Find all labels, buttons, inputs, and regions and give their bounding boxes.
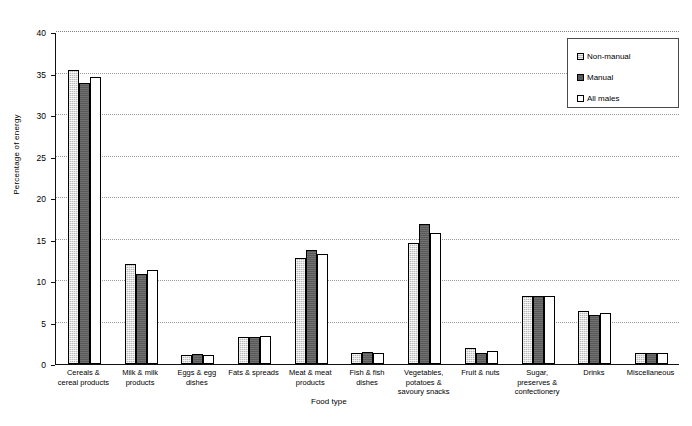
y-tick-label: 20	[0, 194, 46, 204]
bar[interactable]	[90, 77, 101, 364]
legend-label: Non-manual	[587, 52, 631, 61]
bar-group	[340, 33, 397, 364]
x-axis-tick-labels: Cereals & cereal productsMilk & milk pro…	[55, 368, 679, 408]
y-axis: 0510152025303540	[0, 0, 55, 426]
y-tick-label: 5	[0, 319, 46, 329]
y-axis-title: Percentage of energy	[12, 75, 21, 235]
bar[interactable]	[476, 353, 487, 364]
y-tick-mark	[51, 365, 55, 366]
y-tick-label: 0	[0, 360, 46, 370]
legend-swatch-icon	[577, 74, 584, 81]
bar[interactable]	[306, 250, 317, 364]
legend-swatch-icon	[577, 53, 584, 60]
bar-group	[510, 33, 567, 364]
bar-group	[169, 33, 226, 364]
bar[interactable]	[362, 352, 373, 364]
x-tick-label: Miscellaneous	[610, 368, 692, 378]
bar[interactable]	[487, 351, 498, 364]
bar[interactable]	[192, 354, 203, 364]
bar-group	[56, 33, 113, 364]
bar[interactable]	[430, 233, 441, 364]
bar[interactable]	[260, 336, 271, 364]
y-tick-label: 40	[0, 28, 46, 38]
bar-group	[396, 33, 453, 364]
bar-group	[283, 33, 340, 364]
legend-item[interactable]: Manual	[577, 67, 678, 88]
bar[interactable]	[125, 264, 136, 364]
y-tick-label: 30	[0, 111, 46, 121]
bar[interactable]	[79, 83, 90, 364]
bar[interactable]	[635, 353, 646, 364]
y-tick-label: 35	[0, 70, 46, 80]
bar[interactable]	[600, 313, 611, 364]
bar-group	[113, 33, 170, 364]
bar[interactable]	[373, 353, 384, 364]
bar[interactable]	[203, 355, 214, 364]
legend-swatch-icon	[577, 95, 584, 102]
bar[interactable]	[181, 355, 192, 364]
bar[interactable]	[68, 70, 79, 364]
legend-label: Manual	[587, 73, 613, 82]
legend-item[interactable]: All males	[577, 88, 678, 109]
bar[interactable]	[533, 296, 544, 364]
x-axis-title: Food type	[311, 397, 347, 406]
bar[interactable]	[465, 348, 476, 364]
bar[interactable]	[578, 311, 589, 364]
bar-group	[453, 33, 510, 364]
bar[interactable]	[646, 353, 657, 364]
legend-item[interactable]: Non-manual	[577, 46, 678, 67]
gridline	[56, 31, 679, 32]
bar[interactable]	[249, 337, 260, 364]
legend-label: All males	[587, 94, 619, 103]
bar[interactable]	[522, 296, 533, 364]
bar[interactable]	[238, 337, 249, 364]
bar[interactable]	[351, 353, 362, 364]
bar-group	[226, 33, 283, 364]
legend: Non-manualManualAll males	[567, 38, 679, 108]
bar[interactable]	[544, 296, 555, 364]
bar[interactable]	[317, 254, 328, 364]
bar[interactable]	[147, 270, 158, 364]
bar-chart: 0510152025303540 Percentage of energy Ce…	[0, 0, 692, 426]
bar[interactable]	[589, 315, 600, 364]
bar[interactable]	[657, 353, 668, 364]
bar[interactable]	[419, 224, 430, 364]
y-tick-label: 15	[0, 236, 46, 246]
y-tick-label: 10	[0, 277, 46, 287]
bar[interactable]	[295, 258, 306, 364]
bar[interactable]	[408, 243, 419, 364]
bar[interactable]	[136, 274, 147, 364]
y-tick-label: 25	[0, 153, 46, 163]
